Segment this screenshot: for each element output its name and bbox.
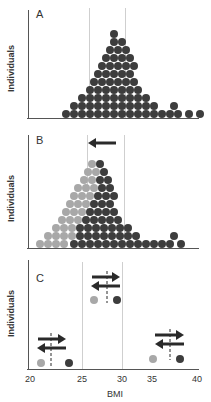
- x-axis-label: BMI: [107, 389, 123, 399]
- x-tick-label: 30: [117, 374, 127, 384]
- dot-light: [149, 355, 157, 363]
- dot-light: [37, 359, 45, 367]
- x-tick-label: 40: [192, 374, 202, 384]
- x-tick-label: 20: [25, 374, 35, 384]
- panel-c: C Individuals 20: [0, 0, 211, 402]
- individual-change-arrows: [0, 0, 211, 402]
- x-tick-label: 35: [147, 374, 157, 384]
- dot-dark: [113, 296, 121, 304]
- dot-light: [90, 296, 98, 304]
- dot-dark: [176, 355, 184, 363]
- x-tick-label: 25: [77, 374, 87, 384]
- dot-dark: [65, 359, 73, 367]
